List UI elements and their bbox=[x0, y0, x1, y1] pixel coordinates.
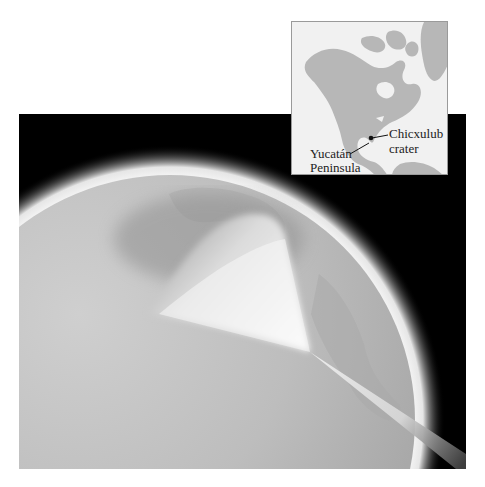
arctic-island bbox=[361, 36, 385, 52]
crater-marker-dot bbox=[369, 136, 374, 141]
inset-map: Chicxulub crater Yucatán Peninsula bbox=[291, 21, 448, 175]
crater-label-line2: crater bbox=[389, 142, 419, 156]
south-america-land bbox=[392, 162, 444, 175]
peninsula-label-line1: Yucatán bbox=[310, 147, 352, 161]
arctic-island bbox=[386, 30, 406, 49]
peninsula-label-line2: Peninsula bbox=[310, 161, 361, 175]
greenland-land bbox=[421, 22, 448, 81]
arctic-island bbox=[405, 42, 418, 57]
crater-label-line1: Chicxulub bbox=[389, 127, 443, 141]
